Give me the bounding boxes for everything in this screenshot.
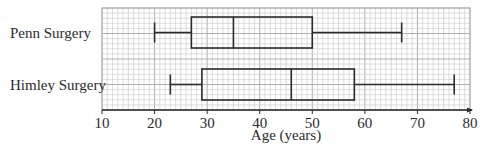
x-tick-label: 30	[200, 115, 215, 131]
x-tick-label: 60	[357, 115, 372, 131]
x-tick-label: 10	[95, 115, 110, 131]
box-plot-chart: 1020304050607080 Penn SurgeryHimley Surg…	[0, 0, 483, 147]
iqr-box	[191, 17, 312, 48]
category-label: Penn Surgery	[10, 25, 91, 41]
x-tick-label: 80	[463, 115, 478, 131]
grid	[102, 8, 470, 110]
x-tick-label: 20	[147, 115, 162, 131]
category-label: Himley Surgery	[10, 77, 106, 93]
x-axis-label: Age (years)	[251, 127, 321, 144]
category-labels: Penn SurgeryHimley Surgery	[10, 25, 106, 93]
x-tick-label: 70	[410, 115, 425, 131]
box-plots	[155, 17, 455, 100]
